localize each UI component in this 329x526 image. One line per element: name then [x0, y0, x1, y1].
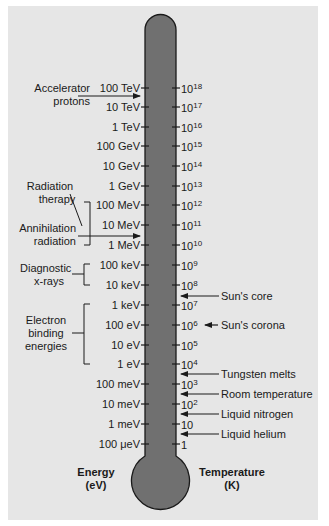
temperature-axis-title: Temperature (K)	[192, 466, 272, 492]
energy-tick-label: 100 meV	[50, 378, 140, 390]
tick-exponent: 18	[193, 82, 202, 91]
tick-base: 10	[181, 181, 193, 193]
tick-exponent: 9	[193, 259, 197, 268]
energy-tick-label: 1 eV	[50, 358, 140, 370]
tick-exponent: 16	[193, 121, 202, 130]
tick-base: 10	[181, 102, 193, 114]
energy-tick-label: 100 GeV	[50, 140, 140, 152]
energy-tick-label: 100 μeV	[50, 438, 140, 450]
temperature-tick-label: 10	[181, 419, 193, 431]
tick-exponent: 17	[193, 101, 202, 110]
energy-tick-label: 1 TeV	[50, 121, 140, 133]
tick-base: 10	[181, 300, 193, 312]
annotation-diagnostic-xrays: Diagnostic x-rays	[20, 262, 70, 288]
energy-tick-label: 1 meV	[50, 418, 140, 430]
temperature-tick-label: 1014	[181, 161, 202, 173]
tick-base: 10	[181, 220, 193, 232]
tick-exponent: 4	[193, 358, 197, 367]
energy-axis-title: Energy (eV)	[66, 466, 126, 492]
tick-base: 10	[181, 419, 193, 431]
temperature-tick-label: 1018	[181, 83, 202, 95]
temperature-tick-label: 1011	[181, 220, 202, 232]
tick-exponent: 13	[193, 180, 202, 189]
temperature-tick-label: 105	[181, 340, 198, 352]
annotation-suns-core: Sun's core	[221, 290, 273, 303]
annotation-suns-corona: Sun's corona	[221, 319, 285, 332]
annotation-tungsten-melts: Tungsten melts	[221, 368, 296, 381]
tick-base: 10	[181, 320, 193, 332]
tick-exponent: 5	[193, 339, 197, 348]
tick-exponent: 11	[193, 219, 201, 228]
tick-base: 10	[181, 83, 193, 95]
temperature-tick-label: 108	[181, 280, 198, 292]
energy-tick-label: 1 keV	[50, 299, 140, 311]
tick-base: 10	[181, 379, 193, 391]
tick-exponent: 8	[193, 279, 197, 288]
tick-exponent: 7	[193, 299, 197, 308]
tick-base: 10	[181, 359, 193, 371]
annotation-liquid-helium: Liquid helium	[221, 428, 286, 441]
temperature-tick-label: 1010	[181, 240, 202, 252]
tick-base: 10	[181, 161, 193, 173]
tick-base: 10	[181, 141, 193, 153]
temperature-tick-label: 107	[181, 300, 198, 312]
tick-exponent: 12	[193, 199, 202, 208]
tick-base: 1	[181, 439, 187, 451]
tick-base: 10	[181, 340, 193, 352]
annotation-annihilation-radiation: Annihilation radiation	[14, 222, 76, 248]
energy-tick-label: 10 GeV	[50, 160, 140, 172]
temperature-tick-label: 1013	[181, 181, 202, 193]
temperature-tick-label: 1017	[181, 102, 202, 114]
annotation-liquid-nitrogen: Liquid nitrogen	[221, 408, 293, 421]
temperature-tick-label: 104	[181, 359, 198, 371]
tick-base: 10	[181, 399, 193, 411]
tick-base: 10	[181, 200, 193, 212]
tick-base: 10	[181, 280, 193, 292]
temperature-tick-label: 102	[181, 399, 198, 411]
temperature-tick-label: 1	[181, 439, 187, 451]
temperature-tick-label: 109	[181, 260, 198, 272]
tick-base: 10	[181, 240, 193, 252]
temperature-tick-label: 106	[181, 320, 198, 332]
temperature-tick-label: 1016	[181, 122, 202, 134]
annotation-room-temperature: Room temperature	[221, 388, 313, 401]
energy-tick-label: 10 meV	[50, 398, 140, 410]
tick-exponent: 15	[193, 140, 202, 149]
temperature-tick-label: 1012	[181, 200, 202, 212]
tick-exponent: 6	[193, 319, 197, 328]
tick-base: 10	[181, 122, 193, 134]
tick-exponent: 2	[193, 398, 197, 407]
annotation-radiation-therapy: Radiation therapy	[22, 180, 78, 206]
tick-base: 10	[181, 260, 193, 272]
tick-exponent: 10	[193, 239, 202, 248]
annotation-electron-binding-energies: Electron binding energies	[22, 314, 70, 353]
temperature-tick-label: 103	[181, 379, 198, 391]
annotation-accelerator-protons: Accelerator protons	[18, 82, 90, 108]
temperature-tick-label: 1015	[181, 141, 202, 153]
tick-exponent: 3	[193, 378, 197, 387]
tick-exponent: 14	[193, 160, 202, 169]
